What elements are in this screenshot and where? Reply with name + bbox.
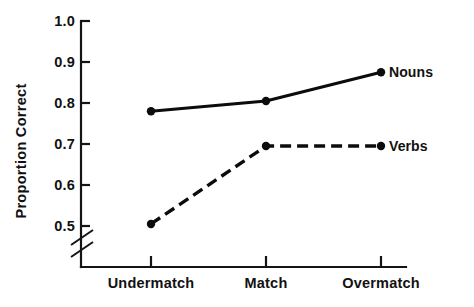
y-axis-ticks <box>81 21 90 226</box>
series-line-nouns <box>151 72 381 111</box>
data-point-nouns <box>147 107 155 115</box>
axes <box>71 21 406 267</box>
series-line-verbs <box>151 146 381 224</box>
chart-figure: Proportion Correct 0.50.60.70.80.91.0 Un… <box>0 0 474 307</box>
data-point-nouns <box>377 68 385 76</box>
data-point-verbs <box>377 142 385 150</box>
data-point-verbs <box>262 142 270 150</box>
data-series <box>147 68 385 228</box>
x-axis-ticks <box>151 256 381 267</box>
plot-area <box>0 0 474 307</box>
data-point-nouns <box>262 97 270 105</box>
data-point-verbs <box>147 220 155 228</box>
